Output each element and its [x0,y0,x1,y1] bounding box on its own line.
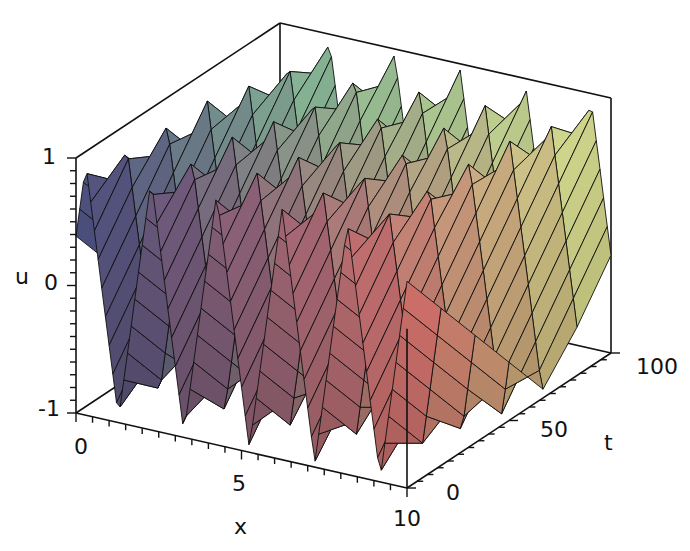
surface-plot [0,0,690,551]
t-tick-label-0: 0 [446,482,460,504]
x-axis-label: x [234,516,247,538]
u-tick-label-neg1: -1 [38,398,60,420]
t-tick-label-100: 100 [636,356,678,378]
u-tick-label-0: 0 [44,272,58,294]
x-tick-label-0: 0 [74,436,88,458]
t-tick-label-50: 50 [540,419,568,441]
x-tick-label-5: 5 [232,473,246,495]
x-tick-label-10: 10 [393,508,421,530]
t-axis-label: t [604,432,613,454]
u-tick-label-1: 1 [42,146,56,168]
u-axis-label: u [15,266,29,288]
